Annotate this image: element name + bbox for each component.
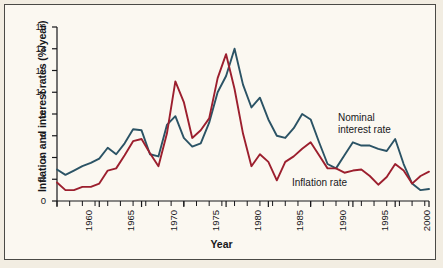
x-axis-label: Year — [0, 238, 443, 250]
series-label-inflation: Inflation rate — [292, 177, 347, 189]
series-label-nominal: Nominal interest rate — [338, 112, 391, 135]
series-label-nominal-line1: Nominal — [338, 112, 391, 124]
series-label-nominal-line2: interest rate — [338, 124, 391, 136]
figure-container: Inflation and interest rates (%/year) 02… — [0, 0, 443, 268]
chart-frame: Inflation and interest rates (%/year) 02… — [4, 4, 436, 260]
